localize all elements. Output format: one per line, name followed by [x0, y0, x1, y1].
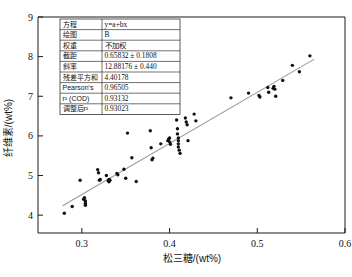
data-point	[99, 178, 102, 181]
stats-row-label: r² (COD)	[63, 95, 90, 103]
data-point	[177, 142, 180, 145]
stats-row-value: B	[105, 30, 110, 39]
y-tick-label: 8	[28, 51, 33, 62]
stats-row-value: 0.96505	[105, 83, 129, 92]
x-tick-label: 0.6	[339, 238, 352, 249]
y-tick-label: 4	[28, 210, 33, 221]
data-point	[122, 167, 125, 170]
stats-row-label: 残差平方和	[63, 73, 98, 82]
data-point	[149, 129, 152, 132]
data-point	[184, 116, 187, 119]
data-point	[186, 139, 189, 142]
x-axis-title: 松三糖/(wt%)	[163, 252, 221, 264]
data-point	[130, 156, 133, 159]
data-point	[78, 179, 81, 182]
data-point	[126, 131, 129, 134]
data-point	[308, 54, 311, 57]
data-point	[168, 136, 171, 139]
data-point	[159, 142, 162, 145]
data-point	[178, 152, 181, 155]
stats-row-value: 12.88176 ± 0.440	[105, 62, 157, 71]
data-point	[175, 118, 178, 121]
x-tick-label: 0.4	[163, 238, 176, 249]
stats-row-value: 0.93023	[105, 104, 129, 113]
data-point	[247, 91, 250, 94]
y-tick-label: 6	[28, 130, 33, 141]
stats-row-value: 0.93132	[105, 94, 129, 103]
data-point	[96, 168, 99, 171]
data-point	[185, 123, 188, 126]
data-point	[177, 139, 180, 142]
data-point	[273, 87, 276, 90]
y-tick-label: 9	[28, 12, 33, 23]
data-point	[83, 196, 86, 199]
stats-row-label: Pearson's	[63, 84, 94, 91]
data-point	[178, 148, 181, 151]
stats-row-label: 截距	[63, 51, 77, 60]
stats-row-label: 方程	[63, 20, 77, 29]
statistics-table: 方程y=a+bx绘图B权重不加权截距0.65832 ± 0.1808斜率12.8…	[60, 19, 180, 114]
stats-row-value: 不加权	[105, 41, 127, 50]
scatter-plot-figure: 0.30.40.50.6 456789 松三糖/(wt%) 纤维素/(wt%) …	[0, 0, 352, 277]
data-point	[176, 132, 179, 135]
stats-row-value: 4.40178	[105, 73, 129, 82]
stats-row-label: 斜率	[63, 62, 77, 71]
data-point	[116, 173, 119, 176]
x-tick-label: 0.5	[251, 238, 264, 249]
stats-row-label: 调整后r²	[63, 104, 89, 113]
y-axis-title: 纤维素/(wt%)	[2, 99, 14, 157]
data-point	[176, 127, 179, 130]
data-point	[124, 177, 127, 180]
y-tick-label: 5	[28, 170, 33, 181]
data-point	[63, 211, 66, 214]
stats-row-value: 0.65832 ± 0.1808	[105, 51, 157, 60]
data-point	[298, 70, 301, 73]
data-point	[108, 179, 111, 182]
data-point	[97, 171, 100, 174]
data-point	[105, 174, 108, 177]
data-point	[192, 112, 195, 115]
stats-row-label: 绘图	[63, 30, 77, 39]
data-point	[151, 156, 154, 159]
stats-row-label: 权重	[63, 41, 77, 50]
data-point	[177, 145, 180, 148]
data-point	[84, 204, 87, 207]
data-point	[281, 79, 284, 82]
x-tick-label: 0.3	[76, 238, 89, 249]
data-point	[267, 91, 270, 94]
data-point	[71, 205, 74, 208]
data-point	[135, 180, 138, 183]
data-point	[149, 146, 152, 149]
data-point	[194, 119, 197, 122]
data-point	[84, 199, 87, 202]
y-tick-label: 7	[28, 91, 33, 102]
data-point	[291, 64, 294, 67]
data-point	[258, 95, 261, 98]
data-point	[169, 143, 172, 146]
data-point	[229, 96, 232, 99]
stats-row-value: y=a+bx	[105, 20, 128, 29]
data-point	[274, 95, 277, 98]
data-point	[266, 86, 269, 89]
chart-canvas: 0.30.40.50.6 456789 松三糖/(wt%) 纤维素/(wt%) …	[0, 0, 352, 277]
